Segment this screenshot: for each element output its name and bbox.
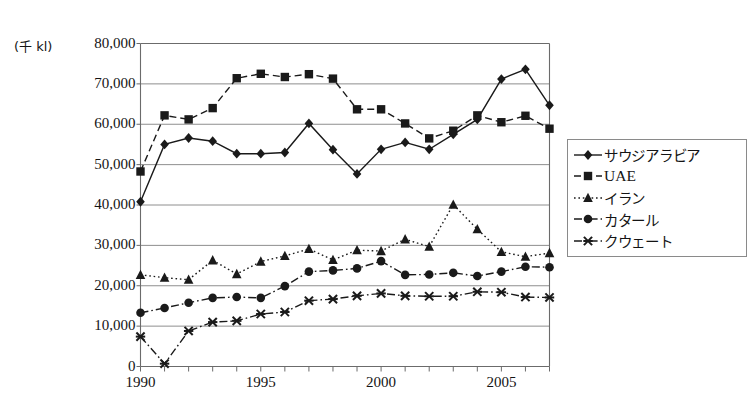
marker-square: [353, 105, 361, 113]
marker-diamond: [208, 136, 217, 146]
marker-circle: [425, 270, 434, 279]
series-line: [141, 69, 550, 201]
marker-x: [376, 289, 385, 297]
series-0: [136, 64, 554, 206]
legend-label: サウジアラビア: [604, 144, 700, 165]
marker-x: [304, 297, 313, 305]
marker-x: [583, 237, 592, 245]
marker-circle: [377, 257, 386, 266]
marker-diamond: [160, 140, 169, 150]
marker-circle: [584, 215, 593, 224]
marker-x: [256, 310, 265, 318]
marker-x: [232, 317, 241, 325]
series-line: [141, 261, 550, 313]
legend-item-3[interactable]: カタール: [570, 209, 744, 231]
marker-circle: [208, 294, 217, 303]
marker-triangle: [352, 245, 362, 254]
marker-triangle: [400, 234, 410, 243]
marker-triangle: [160, 272, 170, 281]
series-2: [136, 199, 555, 283]
marker-square: [208, 104, 216, 112]
marker-triangle: [280, 251, 290, 260]
marker-square: [160, 111, 168, 119]
marker-square: [401, 119, 409, 127]
legend-marker-x-icon: [573, 232, 603, 250]
marker-square: [233, 74, 241, 82]
legend-label: イラン: [604, 187, 645, 208]
legend-marker-triangle-icon: [573, 189, 603, 207]
marker-square: [257, 70, 265, 78]
marker-diamond: [584, 150, 593, 160]
marker-circle: [136, 309, 145, 318]
marker-circle: [545, 263, 554, 272]
marker-circle: [353, 264, 362, 273]
marker-circle: [305, 267, 314, 276]
marker-x: [328, 295, 337, 303]
marker-x: [208, 318, 217, 326]
marker-square: [281, 73, 289, 81]
marker-triangle: [232, 269, 242, 278]
marker-square: [521, 112, 529, 120]
marker-square: [473, 111, 481, 119]
marker-circle: [232, 293, 241, 302]
series-line: [141, 74, 550, 172]
chart-container: (千 kl) 80,00070,00060,00050,00040,00030,…: [0, 0, 752, 419]
marker-triangle: [208, 255, 218, 264]
legend-marker-square-icon: [573, 167, 603, 185]
marker-circle: [401, 271, 410, 280]
marker-circle: [256, 294, 265, 303]
marker-square: [425, 134, 433, 142]
legend-item-4[interactable]: クウェート: [570, 230, 744, 252]
marker-x: [352, 292, 361, 300]
series-3: [136, 257, 554, 317]
marker-square: [449, 127, 457, 135]
legend-item-0[interactable]: サウジアラビア: [570, 144, 744, 166]
marker-x: [473, 288, 482, 296]
marker-diamond: [401, 138, 410, 148]
marker-square: [305, 70, 313, 78]
legend-label: カタール: [604, 209, 659, 230]
marker-circle: [184, 298, 193, 307]
marker-circle: [329, 266, 338, 275]
marker-triangle: [448, 199, 458, 208]
marker-x: [449, 292, 458, 300]
marker-diamond: [232, 149, 241, 159]
marker-diamond: [425, 144, 434, 154]
marker-triangle: [136, 270, 146, 279]
marker-circle: [449, 269, 458, 278]
marker-square: [377, 105, 385, 113]
marker-square: [545, 124, 553, 132]
series-line: [141, 205, 550, 280]
marker-diamond: [256, 149, 265, 159]
marker-square: [497, 118, 505, 126]
legend-marker-circle-icon: [573, 210, 603, 228]
legend-label: クウェート: [604, 230, 673, 251]
marker-x: [425, 292, 434, 300]
chart-legend: サウジアラビアUAEイランカタールクウェート: [567, 139, 747, 257]
marker-x: [400, 292, 409, 300]
marker-square: [184, 115, 192, 123]
legend-marker-diamond-icon: [573, 146, 603, 164]
marker-x: [184, 327, 193, 335]
marker-triangle: [545, 248, 555, 257]
marker-circle: [521, 262, 530, 271]
legend-item-2[interactable]: イラン: [570, 187, 744, 209]
marker-x: [497, 288, 506, 296]
marker-triangle: [473, 224, 483, 233]
marker-circle: [281, 282, 290, 291]
series-1: [136, 70, 553, 176]
legend-item-1[interactable]: UAE: [570, 166, 744, 188]
marker-diamond: [184, 133, 193, 143]
marker-square: [136, 167, 144, 175]
marker-square: [584, 172, 592, 180]
marker-triangle: [376, 246, 386, 255]
series-line: [141, 292, 550, 364]
marker-circle: [473, 272, 482, 281]
marker-x: [521, 293, 530, 301]
marker-triangle: [583, 193, 593, 202]
marker-x: [280, 308, 289, 316]
series-4: [136, 288, 554, 368]
marker-diamond: [497, 74, 506, 84]
marker-square: [329, 74, 337, 82]
marker-circle: [497, 267, 506, 276]
